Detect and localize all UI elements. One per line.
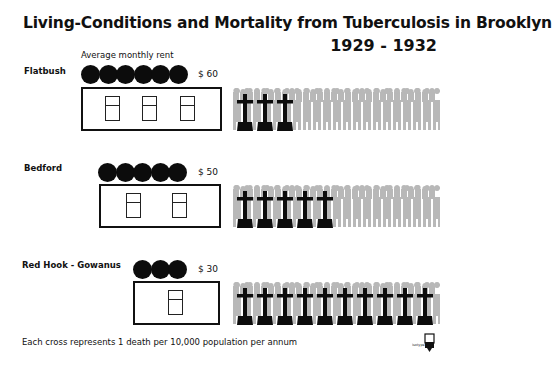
rent-coins-red-hook-gowanus	[133, 260, 186, 279]
coin-icon	[168, 260, 187, 279]
region-label-bedford: Bedford	[24, 163, 62, 173]
chart-years: 1929 - 1932	[330, 36, 437, 55]
population-crowd-red-hook-gowanus	[232, 278, 440, 328]
coin-icon	[98, 163, 117, 182]
region-label-red-hook-gowanus: Red Hook - Gowanus	[22, 260, 121, 270]
rent-coins-bedford	[98, 163, 186, 182]
rent-value-red-hook-gowanus: $ 30	[198, 264, 218, 274]
region-label-flatbush: Flatbush	[24, 66, 66, 76]
window-icon	[142, 96, 157, 121]
coin-icon	[116, 163, 135, 182]
rent-coins-flatbush	[81, 65, 186, 84]
window-icon	[172, 193, 187, 218]
coin-icon	[133, 163, 152, 182]
footnote: Each cross represents 1 death per 10,000…	[22, 337, 297, 347]
coin-icon	[81, 65, 100, 84]
coin-icon	[151, 65, 170, 84]
coin-icon	[134, 65, 153, 84]
logo-text: isotype	[412, 343, 425, 347]
coin-icon	[99, 65, 118, 84]
rent-value-flatbush: $ 60	[198, 69, 218, 79]
isotype-logo-icon: isotype	[412, 332, 436, 354]
coin-icon	[151, 163, 170, 182]
chart-title: Living-Conditions and Mortality from Tub…	[23, 14, 552, 32]
window-icon	[180, 96, 195, 121]
window-icon	[168, 290, 183, 315]
rent-caption: Average monthly rent	[81, 50, 174, 60]
window-icon	[126, 193, 141, 218]
dwelling-flatbush	[81, 87, 222, 131]
population-crowd-flatbush	[232, 84, 440, 134]
dwelling-bedford	[99, 184, 221, 228]
coin-icon	[151, 260, 170, 279]
coin-icon	[168, 163, 187, 182]
coin-icon	[133, 260, 152, 279]
coin-icon	[116, 65, 135, 84]
rent-value-bedford: $ 50	[198, 167, 218, 177]
population-crowd-bedford	[232, 181, 440, 231]
window-icon	[105, 96, 120, 121]
dwelling-red-hook-gowanus	[133, 281, 220, 325]
coin-icon	[169, 65, 188, 84]
